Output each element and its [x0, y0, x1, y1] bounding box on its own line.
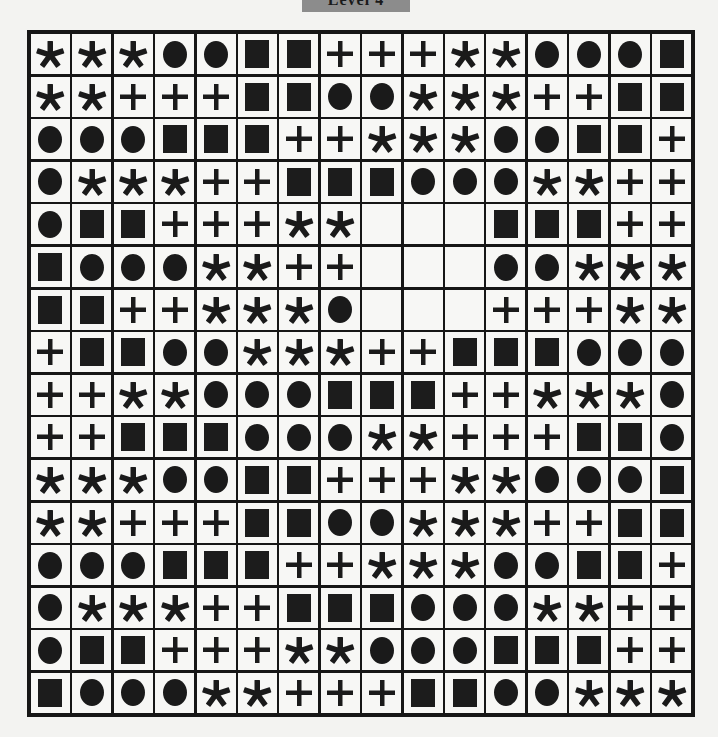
plus-icon	[532, 422, 562, 452]
grid-cell	[569, 375, 608, 415]
grid-cell	[652, 375, 691, 415]
grid-cell	[486, 247, 525, 287]
grid-cell	[445, 119, 484, 159]
plus-icon	[242, 635, 272, 665]
grid-cell	[652, 119, 691, 159]
grid-cell	[445, 588, 484, 628]
circle-icon	[577, 339, 601, 366]
asterisk-icon	[77, 39, 107, 69]
grid-cell	[72, 673, 111, 713]
plus-icon	[532, 295, 562, 325]
circle-icon	[494, 679, 518, 706]
grid-cell	[486, 119, 525, 159]
asterisk-icon	[118, 593, 148, 623]
square-icon	[204, 551, 228, 579]
grid-cell	[114, 34, 153, 74]
empty-cell[interactable]	[404, 247, 443, 287]
circle-icon	[411, 637, 435, 664]
square-icon	[163, 551, 187, 579]
circle-icon	[204, 339, 228, 366]
grid-cell	[238, 162, 277, 202]
empty-cell[interactable]	[445, 247, 484, 287]
plus-icon	[77, 380, 107, 410]
square-icon	[121, 338, 145, 366]
grid-cell	[445, 332, 484, 372]
grid-cell	[321, 34, 360, 74]
circle-icon	[494, 552, 518, 579]
grid-cell	[404, 332, 443, 372]
plus-icon	[367, 465, 397, 495]
empty-cell[interactable]	[404, 290, 443, 330]
grid-cell	[652, 417, 691, 457]
circle-icon	[535, 126, 559, 153]
empty-cell[interactable]	[362, 290, 401, 330]
asterisk-icon	[325, 635, 355, 665]
circle-icon	[204, 41, 228, 68]
asterisk-icon	[532, 167, 562, 197]
plus-icon	[118, 295, 148, 325]
grid-cell	[652, 77, 691, 117]
grid-cell	[238, 375, 277, 415]
plus-icon	[615, 167, 645, 197]
asterisk-icon	[408, 82, 438, 112]
grid-cell	[31, 630, 70, 670]
grid-cell	[652, 460, 691, 500]
grid-cell	[72, 460, 111, 500]
grid-cell	[197, 375, 236, 415]
grid-cell	[652, 290, 691, 330]
circle-icon	[328, 83, 352, 110]
grid-cell	[652, 630, 691, 670]
grid-cell	[362, 417, 401, 457]
empty-cell[interactable]	[445, 204, 484, 244]
grid-cell	[279, 204, 318, 244]
square-icon	[370, 168, 394, 196]
asterisk-icon	[201, 295, 231, 325]
square-icon	[287, 40, 311, 68]
square-icon	[121, 423, 145, 451]
grid-cell	[404, 588, 443, 628]
grid-cell	[31, 503, 70, 543]
empty-cell[interactable]	[404, 204, 443, 244]
plus-icon	[325, 252, 355, 282]
grid-cell	[652, 332, 691, 372]
grid-cell	[238, 503, 277, 543]
grid-cell	[238, 332, 277, 372]
plus-icon	[35, 380, 65, 410]
grid-cell	[114, 588, 153, 628]
grid-cell	[31, 545, 70, 585]
grid-cell	[72, 119, 111, 159]
empty-cell[interactable]	[445, 290, 484, 330]
grid-cell	[362, 460, 401, 500]
square-icon	[287, 168, 311, 196]
grid-cell	[486, 588, 525, 628]
grid-cell	[197, 545, 236, 585]
empty-cell[interactable]	[362, 204, 401, 244]
plus-icon	[450, 380, 480, 410]
grid-cell	[155, 247, 194, 287]
circle-icon	[287, 424, 311, 451]
grid-cell	[486, 417, 525, 457]
plus-icon	[201, 82, 231, 112]
empty-cell[interactable]	[362, 247, 401, 287]
grid-cell	[611, 247, 650, 287]
grid-cell	[528, 460, 567, 500]
grid-cell	[652, 204, 691, 244]
circle-icon	[121, 552, 145, 579]
grid-cell	[611, 204, 650, 244]
square-icon	[577, 210, 601, 238]
grid-cell	[528, 375, 567, 415]
square-icon	[453, 338, 477, 366]
asterisk-icon	[491, 82, 521, 112]
grid-cell	[31, 162, 70, 202]
circle-icon	[494, 254, 518, 281]
asterisk-icon	[118, 167, 148, 197]
square-icon	[163, 125, 187, 153]
square-icon	[577, 125, 601, 153]
asterisk-icon	[118, 465, 148, 495]
grid-cell	[72, 204, 111, 244]
grid-cell	[155, 630, 194, 670]
grid-cell	[611, 332, 650, 372]
plus-icon	[574, 295, 604, 325]
plus-icon	[367, 337, 397, 367]
grid-cell	[445, 460, 484, 500]
